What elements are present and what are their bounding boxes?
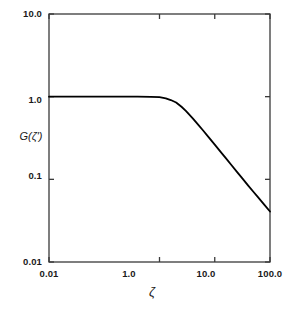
- x-tick-label-2: 10.0: [186, 268, 226, 279]
- y-tick-label-1: 1.0: [2, 94, 42, 105]
- x-tick-label-1: 1.0: [111, 268, 147, 279]
- x-axis-title: ζ: [129, 284, 175, 299]
- series-line-0: [49, 97, 270, 212]
- axes-frame: [49, 14, 270, 262]
- x-tick-label-3: 100.0: [248, 268, 292, 279]
- chart-figure: 10.0 1.0 0.1 0.01 0.01 1.0 10.0 100.0 G(…: [0, 0, 294, 312]
- axis-ticks: [49, 14, 270, 262]
- x-tick-label-0: 0.01: [29, 268, 69, 279]
- y-tick-label-0: 10.0: [2, 8, 42, 19]
- y-tick-label-2: 0.1: [2, 170, 42, 181]
- y-axis-title: G(ζ'): [10, 130, 52, 142]
- data-series-group: [49, 97, 270, 212]
- y-tick-label-3: 0.01: [2, 256, 42, 267]
- plot-canvas: [0, 0, 294, 312]
